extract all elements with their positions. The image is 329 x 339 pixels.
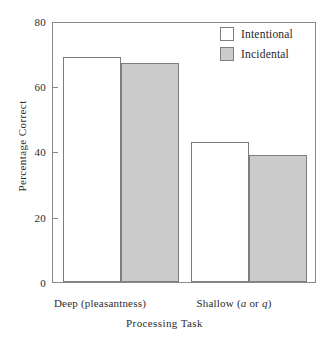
- y-axis-title: Percentage Correct: [16, 76, 28, 216]
- bar-intentional-shallow: [191, 142, 249, 282]
- x-category-label-deep: Deep (pleasantness): [42, 297, 158, 310]
- bar-incidental-shallow: [249, 155, 307, 282]
- x-category-label-shallow: Shallow (a or q): [176, 297, 292, 310]
- legend-swatch-gray-icon: [220, 47, 234, 61]
- bar-intentional-deep: [63, 57, 121, 282]
- legend: Intentional Incidental: [220, 27, 293, 61]
- legend-label-intentional: Intentional: [241, 28, 293, 40]
- legend-item-intentional: Intentional: [220, 27, 293, 41]
- bar-chart-figure: Intentional Incidental 80 60 40 20 0 Per…: [0, 0, 329, 339]
- y-tick-label-80: 80: [18, 17, 46, 28]
- plot-area: Intentional Incidental: [52, 22, 316, 283]
- legend-item-incidental: Incidental: [220, 47, 293, 61]
- legend-label-incidental: Incidental: [241, 48, 289, 60]
- y-tick-label-0: 0: [18, 278, 46, 289]
- x-axis-title: Processing Task: [0, 317, 329, 329]
- legend-swatch-white-icon: [220, 27, 234, 41]
- bar-incidental-deep: [121, 63, 179, 282]
